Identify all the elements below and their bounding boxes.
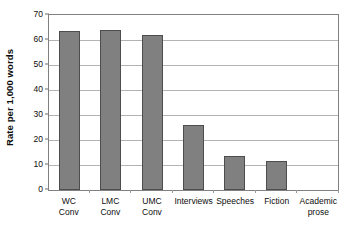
- bar-slot: [173, 15, 214, 190]
- x-axis-labels: WCConvLMCConvUMCConvInterviewsSpeechesFi…: [48, 196, 339, 232]
- x-axis-tick-marks: [48, 190, 339, 194]
- bar[interactable]: [100, 30, 121, 190]
- x-axis-category-label: Speeches: [214, 196, 256, 232]
- x-axis-category-label: WCConv: [48, 196, 90, 232]
- y-axis-tick-label: 40: [34, 85, 43, 94]
- bar[interactable]: [183, 125, 204, 190]
- x-axis-category-label: LMCConv: [90, 196, 132, 232]
- x-axis-category-label-line: Conv: [49, 207, 89, 218]
- x-tick-slot: [297, 190, 339, 194]
- bar-slot: [90, 15, 131, 190]
- bar[interactable]: [59, 31, 80, 190]
- bar-slot: [214, 15, 255, 190]
- y-axis-title-text: Rate per 1,000 words: [5, 49, 16, 146]
- x-axis-category-label-line: Speeches: [215, 196, 255, 207]
- x-axis-category-label-line: Fiction: [257, 196, 297, 207]
- y-axis-tick-label: 60: [34, 35, 43, 44]
- x-axis-category-label: Fiction: [256, 196, 298, 232]
- x-tick-slot: [90, 190, 132, 194]
- x-axis-category-label-line: Interviews: [174, 196, 214, 207]
- bar-chart: Rate per 1,000 words 706050403020100 WCC…: [0, 0, 349, 235]
- x-axis-category-label-line: LMC: [91, 196, 131, 207]
- x-tick-slot: [131, 190, 173, 194]
- x-tick-slot: [214, 190, 256, 194]
- y-axis-tick-labels: 706050403020100: [20, 8, 46, 190]
- y-axis-tick-label: 0: [38, 185, 43, 194]
- y-axis-tick-label: 20: [34, 135, 43, 144]
- y-axis-tick-label: 10: [34, 160, 43, 169]
- x-axis-category-label-line: Conv: [91, 207, 131, 218]
- x-axis-tick-mark: [338, 190, 339, 193]
- x-tick-slot: [173, 190, 215, 194]
- bar-slot: [255, 15, 296, 190]
- x-axis-category-label: Interviews: [173, 196, 215, 232]
- bar-slot: [132, 15, 173, 190]
- y-axis-tick-label: 30: [34, 110, 43, 119]
- bars-layer: [49, 15, 338, 190]
- bar-slot: [297, 15, 338, 190]
- x-axis-category-label: Academicprose: [297, 196, 339, 232]
- x-axis-category-label-line: UMC: [132, 196, 172, 207]
- x-tick-slot: [48, 190, 90, 194]
- plot-area: [48, 14, 339, 191]
- x-axis-category-label-line: WC: [49, 196, 89, 207]
- x-axis-category-label: UMCConv: [131, 196, 173, 232]
- x-axis-category-label-line: prose: [298, 207, 338, 218]
- bar[interactable]: [142, 35, 163, 190]
- y-axis-tick-label: 50: [34, 60, 43, 69]
- y-axis-tick-label: 70: [34, 10, 43, 19]
- x-tick-slot: [256, 190, 298, 194]
- bar[interactable]: [224, 156, 245, 190]
- y-axis-title: Rate per 1,000 words: [0, 0, 20, 195]
- x-axis-category-label-line: Conv: [132, 207, 172, 218]
- x-axis-category-label-line: Academic: [298, 196, 338, 207]
- bar-slot: [49, 15, 90, 190]
- bar[interactable]: [266, 161, 287, 190]
